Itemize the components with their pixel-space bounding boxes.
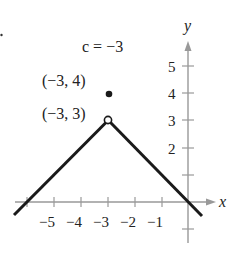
point-label-open: (−3, 3)	[42, 105, 86, 123]
y-tick-label-5: 5	[168, 59, 176, 75]
y-tick-label-3: 3	[168, 113, 176, 129]
stray-mark	[0, 34, 2, 36]
open-point	[104, 116, 111, 123]
x-tick-label-m4: −4	[66, 214, 82, 230]
graph-canvas: c = −3 (−3, 4) (−3, 3) y x 5 4 3 2 −5 −4…	[0, 0, 230, 260]
y-axis-arrow-icon	[185, 41, 192, 51]
x-tick-label-m3: −3	[93, 214, 109, 230]
v-curve	[14, 123, 106, 216]
x-axis-arrow-icon	[206, 199, 216, 206]
y-tick-label-2: 2	[168, 141, 176, 157]
x-axis-label: x	[218, 193, 226, 210]
x-tick-label-m5: −5	[39, 214, 55, 230]
y-tick-label-4: 4	[168, 86, 176, 102]
x-tick-label-m1: −1	[147, 214, 163, 230]
point-label-filled: (−3, 4)	[42, 72, 86, 90]
chart-title: c = −3	[82, 38, 123, 55]
y-axis-label: y	[182, 17, 192, 35]
y-axis	[182, 41, 194, 243]
filled-point	[106, 91, 113, 98]
x-tick-label-m2: −2	[120, 214, 136, 230]
